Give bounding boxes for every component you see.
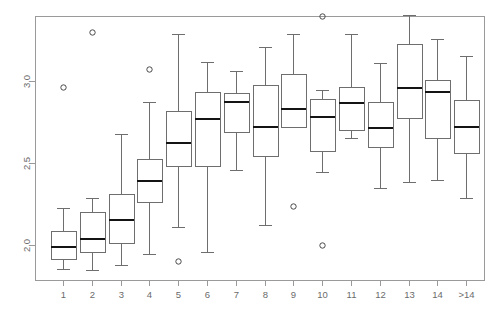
interquartile-box	[310, 100, 335, 152]
boxplot-box	[51, 209, 76, 270]
outlier-point	[147, 67, 152, 72]
boxplot-box	[281, 35, 306, 128]
boxplot-box	[253, 48, 278, 226]
boxplot-box	[224, 72, 249, 171]
outlier-point	[291, 204, 296, 209]
boxplot-box	[397, 16, 422, 183]
y-axis-tick-labels: 2.02.53.0	[21, 75, 32, 252]
x-tick-label: 7	[234, 289, 239, 300]
x-tick-label: 11	[347, 289, 357, 300]
x-tick-label: 10	[317, 289, 328, 300]
boxplot-box	[368, 64, 393, 189]
interquartile-box	[224, 94, 249, 133]
x-axis-tick-labels: 1234567891011121314>14	[61, 289, 475, 300]
boxplot-box	[80, 199, 105, 271]
x-tick-label: >14	[458, 289, 474, 300]
x-tick-label: 5	[176, 289, 181, 300]
x-tick-label: 12	[375, 289, 386, 300]
outlier-point	[320, 243, 325, 248]
x-tick-label: 2	[90, 289, 95, 300]
boxplot-box	[137, 103, 162, 255]
x-axis-ticks	[64, 281, 467, 286]
y-tick-label: 2.5	[21, 157, 32, 170]
interquartile-box	[368, 103, 393, 148]
interquartile-box	[195, 93, 220, 167]
x-tick-label: 8	[263, 289, 268, 300]
boxplot-box	[166, 35, 191, 228]
interquartile-box	[397, 45, 422, 119]
interquartile-box	[166, 112, 191, 167]
x-tick-label: 1	[61, 289, 66, 300]
outlier-point	[90, 30, 95, 35]
interquartile-box	[425, 81, 450, 139]
boxplot-box	[425, 40, 450, 181]
interquartile-box	[80, 213, 105, 253]
x-tick-label: 3	[119, 289, 124, 300]
boxplot-canvas: 2.02.53.0 1234567891011121314>14	[0, 0, 502, 311]
interquartile-box	[253, 86, 278, 157]
x-tick-label: 4	[147, 289, 152, 300]
box-series	[51, 16, 479, 271]
interquartile-box	[339, 88, 364, 131]
x-tick-label: 9	[291, 289, 296, 300]
outlier-point	[61, 85, 66, 90]
interquartile-box	[51, 232, 76, 260]
boxplot-box	[339, 35, 364, 139]
outlier-point	[176, 259, 181, 264]
boxplot-box	[310, 91, 335, 173]
y-tick-label: 2.0	[21, 239, 32, 252]
boxplot-box	[195, 63, 220, 253]
x-tick-label: 14	[432, 289, 443, 300]
boxplot-figure: 2.02.53.0 1234567891011121314>14	[0, 0, 502, 311]
x-tick-label: 6	[205, 289, 210, 300]
boxplot-box	[454, 57, 479, 199]
boxplot-box	[109, 135, 134, 266]
y-tick-label: 3.0	[21, 75, 32, 88]
x-tick-label: 13	[404, 289, 415, 300]
interquartile-box	[281, 75, 306, 128]
